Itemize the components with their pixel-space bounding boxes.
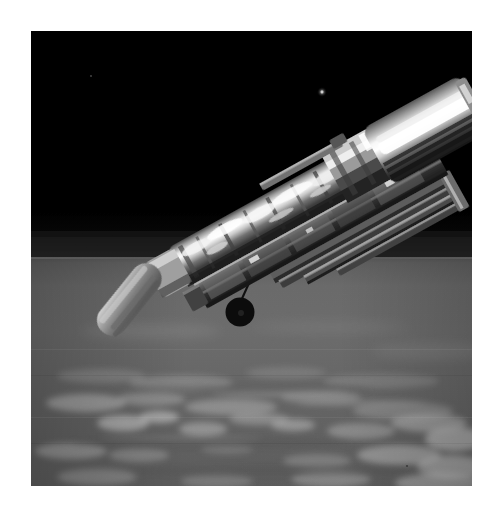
- photograph-hubble-space-telescope: [31, 31, 472, 486]
- photo-canvas: [31, 31, 472, 486]
- page-root: Hubble Space Telescope in orbit above Ea…: [0, 0, 498, 514]
